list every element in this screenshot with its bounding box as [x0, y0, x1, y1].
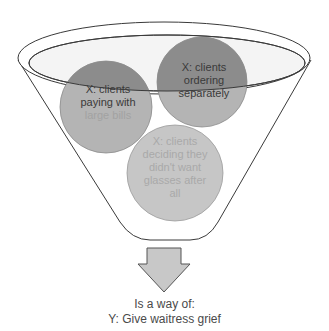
input-label-x3-line2: deciding they	[143, 148, 208, 160]
input-label-x2-line2: ordering	[184, 74, 224, 86]
down-arrow-icon	[138, 248, 190, 292]
input-label-x3-line5: all	[169, 187, 180, 199]
input-label-x2-line3: separately	[179, 87, 230, 99]
input-label-x1-line1: X: clients	[86, 83, 131, 95]
input-label-x1-line3: large bills	[85, 109, 132, 121]
input-label-x3-line3: didn't want	[149, 161, 201, 173]
funnel-diagram: X: clients paying with large bills X: cl…	[0, 0, 329, 331]
input-label-x2-line1: X: clients	[182, 61, 227, 73]
input-label-x3-line4: glasses after	[144, 174, 207, 186]
output-connector: Is a way of:	[0, 297, 329, 311]
input-label-x3-line1: X: clients	[153, 135, 198, 147]
output-result: Y: Give waitress grief	[0, 312, 329, 326]
input-label-x1-line2: paying with	[80, 96, 135, 108]
